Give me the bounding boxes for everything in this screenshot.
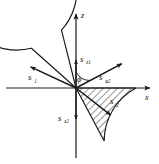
sz1-label-group: s z1 [80,54,91,65]
circle-outline-group [0,0,77,88]
s-phi2-label-group: s φ2 [99,72,111,84]
sz1-label-sub: z1 [85,59,91,65]
s-phi2-label-sub: φ2 [105,78,111,84]
circle-arc [0,0,77,50]
sz2-label-sub: z2 [63,118,69,124]
spin-vector-diagram: z x s 1 s z1 s φ2 s z2 s 2 ϕ [0,0,159,164]
s1-label-sub: 1 [34,78,37,84]
axes-group [6,14,150,158]
sz1-label: s [80,54,84,64]
s1-vector [31,67,76,88]
sz2-label: s [58,113,62,123]
sz2-label-group: s z2 [58,113,69,124]
s1-label: s [28,72,32,82]
s2-label: s [110,96,114,106]
notch-edge-inner [62,30,77,88]
z-axis-label: z [80,11,85,20]
s1-label-group: s 1 [28,72,37,84]
x-axis-label: x [144,93,149,102]
s-phi2-label: s [99,72,103,82]
phi-angle-label: ϕ [77,74,82,84]
figure-canvas: z x s 1 s z1 s φ2 s z2 s 2 ϕ [0,0,159,164]
s2-label-sub: 2 [116,102,119,108]
notch-edge-outer [31,48,76,88]
